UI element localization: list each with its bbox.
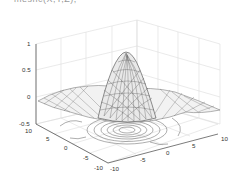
- svg-text:-10: -10: [110, 165, 120, 172]
- mesh-contour-plot: 1 0.5 0 -0.5 10 5 0 -5 -10 -10 -5 0 5 10: [0, 0, 240, 184]
- svg-text:0.5: 0.5: [22, 66, 31, 73]
- svg-text:-0.5: -0.5: [19, 120, 30, 127]
- svg-text:10: 10: [25, 127, 32, 134]
- svg-text:5: 5: [192, 142, 196, 149]
- mesh-surface: [38, 52, 220, 123]
- svg-text:1: 1: [27, 40, 31, 47]
- svg-text:-5: -5: [140, 156, 146, 163]
- svg-text:-10: -10: [94, 164, 104, 171]
- svg-text:-5: -5: [83, 154, 89, 161]
- svg-text:10: 10: [221, 135, 228, 142]
- y-axis: [36, 124, 108, 163]
- y-tick-labels: 10 5 0 -5 -10: [25, 127, 104, 171]
- svg-text:5: 5: [46, 135, 50, 142]
- svg-text:0: 0: [64, 144, 68, 151]
- svg-text:0: 0: [27, 93, 31, 100]
- svg-text:0: 0: [166, 149, 170, 156]
- z-tick-labels: 1 0.5 0 -0.5: [19, 40, 31, 127]
